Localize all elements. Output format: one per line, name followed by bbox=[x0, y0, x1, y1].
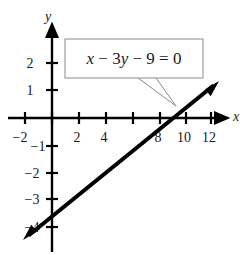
y-axis-tick-labels: 21−1−2−3−4 bbox=[25, 56, 46, 235]
graph-figure: −22481012 x 21−1−2−3−4 y x − 3y − 9 = 0 bbox=[0, 0, 250, 255]
equation-operator-minus-2: − bbox=[133, 48, 143, 67]
x-axis-tick-label: 12 bbox=[202, 130, 216, 145]
x-axis-tick-label: 10 bbox=[177, 130, 191, 145]
line-graph-x-minus-3y-minus-9 bbox=[29, 86, 214, 236]
callout-pointer bbox=[138, 78, 176, 106]
x-axis-label: x bbox=[232, 109, 240, 124]
coordinate-plane-graph: −22481012 x 21−1−2−3−4 y x − 3y − 9 = 0 bbox=[0, 0, 250, 255]
equation-coefficient-3: 3 bbox=[112, 48, 121, 67]
y-axis-tick-label: −2 bbox=[25, 166, 40, 181]
line-arrowhead-upper-right bbox=[205, 81, 219, 96]
y-axis-tick-label: −1 bbox=[31, 139, 46, 154]
callout-equation-text: x − 3y − 9 = 0 bbox=[86, 48, 182, 67]
x-axis-tick-label: 4 bbox=[101, 130, 108, 145]
equation-term-y: y bbox=[119, 48, 129, 67]
equation-callout: x − 3y − 9 = 0 bbox=[65, 39, 203, 78]
y-axis-tick-label: 2 bbox=[27, 56, 34, 71]
y-axis-tick-label: 1 bbox=[27, 83, 34, 98]
y-axis-label: y bbox=[43, 9, 52, 24]
x-axis-tick-label: 2 bbox=[74, 130, 81, 145]
y-axis-tick-label: −3 bbox=[25, 192, 40, 207]
equation-equals-sign: = bbox=[159, 48, 169, 67]
x-axis-tick-label: −2 bbox=[13, 130, 28, 145]
equation-constant-9: 9 bbox=[146, 48, 155, 67]
equation-value-0: 0 bbox=[173, 48, 182, 67]
equation-operator-minus-1: − bbox=[98, 48, 108, 67]
callout-pointer-leader bbox=[138, 78, 176, 106]
